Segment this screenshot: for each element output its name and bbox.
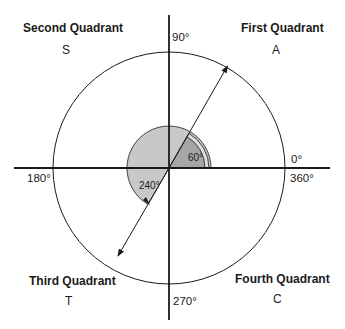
- fourth-quadrant-letter: C: [273, 292, 282, 306]
- label-0: 0°: [291, 153, 302, 165]
- second-quadrant-letter: S: [62, 43, 70, 57]
- first-quadrant-letter: A: [272, 43, 280, 57]
- label-270: 270°: [173, 295, 197, 307]
- third-quadrant-title: Third Quadrant: [29, 274, 116, 288]
- first-quadrant-title: First Quadrant: [241, 21, 324, 35]
- label-90: 90°: [172, 31, 189, 43]
- fourth-quadrant-title: Fourth Quadrant: [235, 272, 330, 286]
- third-quadrant-letter: T: [65, 294, 73, 308]
- angle-60-label: 60°: [188, 152, 203, 163]
- unit-circle-diagram: Second Quadrant S First Quadrant A Third…: [0, 0, 345, 329]
- label-360: 360°: [290, 172, 314, 184]
- second-quadrant-title: Second Quadrant: [23, 21, 123, 35]
- label-180: 180°: [27, 172, 51, 184]
- angle-240-label: 240°: [139, 180, 160, 191]
